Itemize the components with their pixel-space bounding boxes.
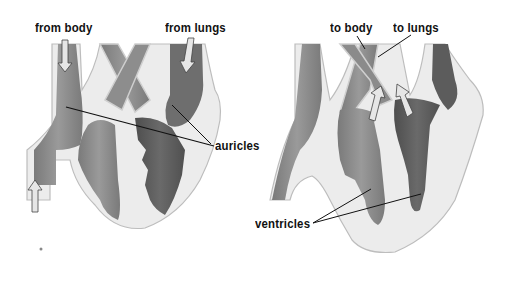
label-auricles: auricles bbox=[215, 138, 260, 153]
label-to-body: to body bbox=[330, 20, 373, 35]
label-ventricles: ventricles bbox=[255, 216, 310, 231]
label-to-lungs: to lungs bbox=[393, 20, 439, 35]
left-heart bbox=[27, 38, 220, 251]
label-from-body: from body bbox=[35, 20, 93, 35]
label-from-lungs: from lungs bbox=[165, 20, 226, 35]
